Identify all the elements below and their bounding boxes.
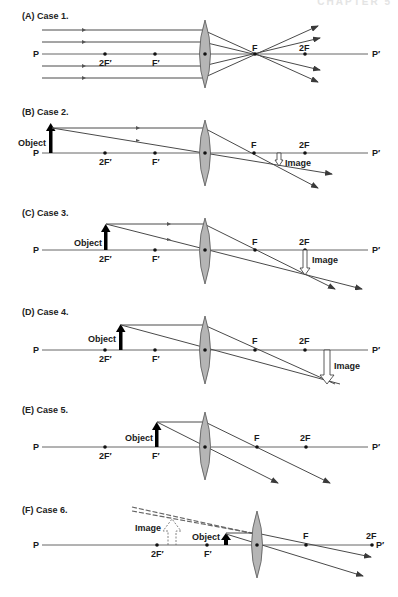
- axis-label-p: P: [33, 49, 39, 59]
- image-label: Image: [285, 158, 311, 168]
- svg-text:2F: 2F: [300, 433, 311, 443]
- svg-text:F′: F′: [152, 254, 160, 264]
- svg-text:2F′: 2F′: [99, 451, 112, 461]
- svg-text:F: F: [254, 433, 260, 443]
- svg-text:P′: P′: [372, 442, 380, 452]
- svg-text:2F: 2F: [299, 336, 310, 346]
- svg-text:P′: P′: [376, 540, 384, 550]
- svg-text:P: P: [33, 442, 39, 452]
- svg-text:2F′: 2F′: [99, 254, 112, 264]
- svg-text:F′: F′: [152, 451, 160, 461]
- svg-text:2F′: 2F′: [151, 549, 164, 559]
- case-c-diagram: P P′ Object 2F′ F′ F 2F Image: [33, 218, 380, 289]
- svg-text:Image: Image: [334, 361, 360, 371]
- svg-text:F: F: [252, 237, 258, 247]
- label-f: F: [252, 43, 258, 53]
- lens-diagrams: P P′ 2F′ F′ F 2F P P′: [0, 0, 398, 597]
- case-e-diagram: P P′ Object 2F′ F′ F 2F: [33, 412, 380, 483]
- svg-text:2F: 2F: [299, 237, 310, 247]
- svg-text:Image: Image: [312, 255, 338, 265]
- axis-label-p-prime: P′: [372, 49, 380, 59]
- svg-text:P′: P′: [372, 345, 380, 355]
- svg-text:F: F: [303, 531, 309, 541]
- svg-text:F: F: [252, 336, 258, 346]
- svg-text:F′: F′: [204, 549, 212, 559]
- svg-text:Object: Object: [125, 433, 153, 443]
- label-2f-prime: 2F′: [99, 58, 112, 68]
- svg-text:P: P: [33, 345, 39, 355]
- svg-text:P: P: [33, 148, 39, 158]
- svg-text:2F: 2F: [366, 531, 377, 541]
- label-2f: 2F: [299, 43, 310, 53]
- svg-text:F: F: [251, 140, 257, 150]
- svg-text:2F′: 2F′: [99, 354, 112, 364]
- svg-text:2F′: 2F′: [99, 157, 112, 167]
- image-arrow: [275, 153, 283, 166]
- svg-text:P′: P′: [372, 245, 380, 255]
- case-b-diagram: P P′ Object 2F′ F′ F 2F Image: [18, 120, 380, 188]
- svg-text:P: P: [33, 245, 39, 255]
- svg-text:Object: Object: [88, 334, 116, 344]
- svg-text:F′: F′: [152, 354, 160, 364]
- svg-text:P: P: [33, 540, 39, 550]
- case-f-diagram: P P′ Image Object 2F′ F′ F 2F: [33, 507, 384, 578]
- object-label: Object: [18, 138, 46, 148]
- svg-text:Object: Object: [74, 238, 102, 248]
- svg-text:Image: Image: [135, 523, 161, 533]
- svg-text:P′: P′: [372, 148, 380, 158]
- svg-text:Object: Object: [192, 532, 220, 542]
- svg-text:F′: F′: [152, 157, 160, 167]
- case-d-diagram: P P′ Object 2F′ F′ F 2F Image: [33, 316, 380, 384]
- svg-text:2F: 2F: [299, 140, 310, 150]
- label-f-prime: F′: [152, 58, 160, 68]
- case-a-diagram: P P′ 2F′ F′ F 2F: [33, 20, 380, 88]
- virtual-image-arrow: [163, 519, 181, 545]
